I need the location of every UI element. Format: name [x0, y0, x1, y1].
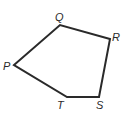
vertex-label-r: R — [112, 31, 120, 43]
vertex-label-t: T — [57, 99, 65, 111]
vertex-label-s: S — [96, 99, 104, 111]
vertex-label-q: Q — [55, 11, 64, 23]
diagram-canvas: P Q R S T — [0, 0, 127, 113]
pentagon-pqrst — [14, 25, 110, 97]
pentagon-figure: P Q R S T — [0, 0, 127, 113]
vertex-label-p: P — [3, 60, 11, 72]
